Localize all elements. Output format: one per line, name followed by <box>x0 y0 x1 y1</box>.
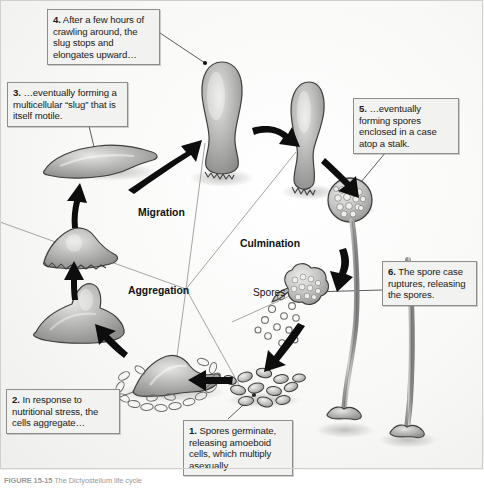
callout-step-6-text: 6. The spore case ruptures, releasing th… <box>388 266 466 300</box>
callout-step-5: 5. …eventually forming spores enclosed i… <box>353 98 459 154</box>
callout-step-3: 3. …eventually forming a multicellular “… <box>7 82 128 127</box>
organism-sporangium <box>328 178 372 410</box>
callout-step-1-text: 1. Spores germinate, releasing amoeboid … <box>189 425 276 471</box>
slime-mold-life-cycle-figure: 4. After a few hours of crawling around,… <box>0 0 484 490</box>
organism-early-mound <box>44 228 118 269</box>
callout-step-5-text: 5. …eventually forming spores enclosed i… <box>359 103 437 149</box>
stalk-base-disc-left <box>327 407 361 420</box>
annotation-label-spores: Spores <box>253 287 285 298</box>
callout-step-2-text: 2. In response to nutritional stress, th… <box>12 394 98 428</box>
stage-label-aggregation: Aggregation <box>128 285 189 296</box>
callout-step-4-text: 4. After a few hours of crawling around,… <box>53 14 144 60</box>
stage-label-culmination: Culmination <box>240 238 300 249</box>
figure-caption: FIGURE 15-15 The Dictyostelium life cycl… <box>4 476 474 488</box>
callout-step-2: 2. In response to nutritional stress, th… <box>6 389 120 434</box>
callout-step-6: 6. The spore case ruptures, releasing th… <box>382 261 477 306</box>
callout-step-4: 4. After a few hours of crawling around,… <box>47 9 160 65</box>
callout-step-1: 1. Spores germinate, releasing amoeboid … <box>183 420 293 476</box>
callout-step-3-text: 3. …eventually forming a multicellular “… <box>13 87 117 121</box>
organism-ruptured-spore-case <box>272 264 328 305</box>
stage-label-migration: Migration <box>138 207 185 218</box>
organism-elongating-slug <box>202 62 242 179</box>
organism-aggregation-mound <box>34 284 125 344</box>
